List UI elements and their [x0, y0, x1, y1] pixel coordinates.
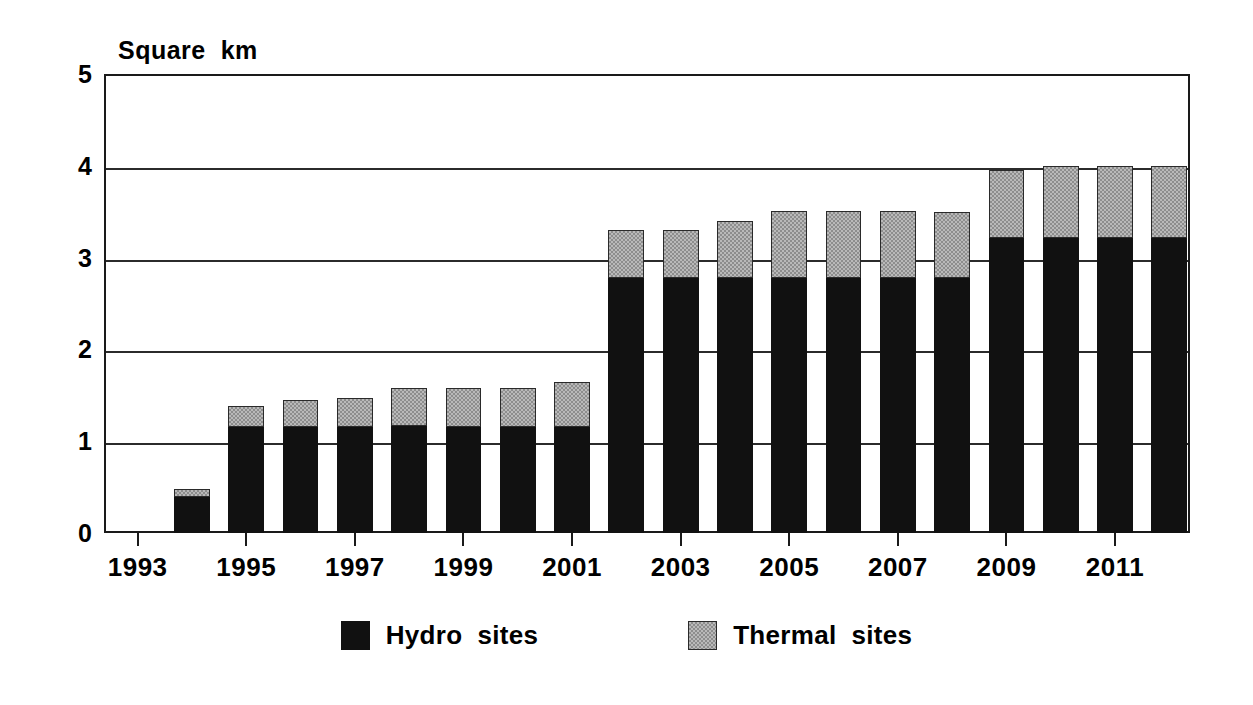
x-tick-label-2011: 2011 [1086, 552, 1144, 583]
x-tick-mark-2007 [897, 533, 899, 546]
bars-layer [104, 74, 1190, 533]
bar-segment-hydro [989, 238, 1025, 533]
bar-segment-hydro [1097, 238, 1133, 533]
bar-segment-thermal [989, 170, 1025, 238]
bar-segment-hydro [880, 278, 916, 533]
bar-1996 [283, 400, 319, 533]
x-tick-label-2007: 2007 [868, 552, 928, 583]
x-tick-label-1997: 1997 [325, 552, 385, 583]
bar-2012 [1151, 166, 1187, 533]
x-tick-mark-2001 [571, 533, 573, 546]
legend-item-thermal: Thermal sites [688, 620, 912, 651]
bar-segment-hydro [391, 426, 427, 533]
y-tick-label-3: 3 [52, 243, 92, 272]
bar-segment-hydro [771, 278, 807, 533]
bar-2005 [771, 211, 807, 533]
stacked-bar-chart: Square km 012345 19931995199719992001200… [0, 0, 1253, 705]
x-tick-label-2009: 2009 [977, 552, 1037, 583]
bar-segment-thermal [1151, 166, 1187, 239]
bar-segment-hydro [1151, 238, 1187, 533]
x-tick-label-2005: 2005 [759, 552, 819, 583]
legend-item-hydro: Hydro sites [341, 620, 538, 651]
x-axis-tick-marks [104, 533, 1190, 547]
x-tick-mark-1995 [245, 533, 247, 546]
bar-segment-thermal [446, 388, 482, 427]
x-tick-label-1999: 1999 [434, 552, 494, 583]
bar-segment-hydro [337, 427, 373, 533]
bar-2011 [1097, 166, 1133, 533]
bar-1997 [337, 398, 373, 533]
bar-segment-hydro [283, 427, 319, 533]
bar-segment-hydro [608, 278, 644, 533]
bar-2000 [500, 388, 536, 533]
y-tick-label-4: 4 [52, 151, 92, 180]
bar-segment-thermal [337, 398, 373, 426]
bar-segment-hydro [1043, 238, 1079, 533]
y-tick-label-2: 2 [52, 335, 92, 364]
bar-2001 [554, 382, 590, 533]
bar-2002 [608, 230, 644, 533]
bar-segment-hydro [826, 278, 862, 533]
bar-segment-hydro [717, 278, 753, 533]
bar-segment-hydro [934, 278, 970, 533]
bar-segment-hydro [500, 427, 536, 533]
bar-segment-thermal [391, 388, 427, 426]
legend-label-hydro: Hydro sites [386, 620, 538, 651]
bar-segment-thermal [228, 406, 264, 427]
x-tick-mark-1997 [354, 533, 356, 546]
legend-label-thermal: Thermal sites [733, 620, 912, 651]
y-tick-label-1: 1 [52, 427, 92, 456]
bar-segment-hydro [228, 427, 264, 533]
bar-2003 [663, 230, 699, 533]
bar-segment-thermal [663, 230, 699, 278]
bar-1994 [174, 489, 210, 533]
bar-segment-thermal [717, 221, 753, 278]
x-axis-tick-labels: 1993199519971999200120032005200720092011 [104, 552, 1190, 592]
bar-2010 [1043, 166, 1079, 533]
bar-segment-thermal [826, 211, 862, 278]
bar-segment-hydro [554, 427, 590, 533]
y-axis-title: Square km [118, 36, 258, 65]
bar-1998 [391, 388, 427, 533]
x-tick-mark-2005 [788, 533, 790, 546]
bar-segment-thermal [880, 211, 916, 278]
x-tick-label-2003: 2003 [651, 552, 711, 583]
bar-2006 [826, 211, 862, 533]
bar-segment-thermal [283, 400, 319, 427]
bar-1999 [446, 388, 482, 533]
bar-segment-thermal [934, 212, 970, 278]
bar-segment-thermal [771, 211, 807, 278]
x-tick-label-1995: 1995 [216, 552, 276, 583]
legend-swatch-thermal-icon [688, 621, 717, 650]
y-tick-label-5: 5 [52, 60, 92, 89]
bar-2007 [880, 211, 916, 533]
bar-segment-hydro [174, 497, 210, 533]
bar-2009 [989, 170, 1025, 533]
bar-segment-thermal [608, 230, 644, 278]
bar-segment-thermal [554, 382, 590, 428]
bar-2004 [717, 221, 753, 533]
bar-2008 [934, 212, 970, 533]
x-tick-mark-2003 [680, 533, 682, 546]
x-tick-mark-2011 [1114, 533, 1116, 546]
x-tick-mark-1999 [462, 533, 464, 546]
bar-segment-thermal [500, 388, 536, 427]
bar-segment-thermal [1097, 166, 1133, 239]
bar-segment-hydro [446, 427, 482, 533]
x-tick-label-1993: 1993 [108, 552, 168, 583]
bar-segment-hydro [663, 278, 699, 533]
x-tick-mark-1993 [137, 533, 139, 546]
bar-1995 [228, 406, 264, 533]
bar-segment-thermal [1043, 166, 1079, 239]
x-tick-label-2001: 2001 [542, 552, 602, 583]
x-tick-mark-2009 [1005, 533, 1007, 546]
y-tick-label-0: 0 [52, 519, 92, 548]
legend-swatch-hydro-icon [341, 621, 370, 650]
y-axis-tick-labels: 012345 [44, 74, 92, 533]
legend: Hydro sites Thermal sites [0, 620, 1253, 651]
bar-segment-thermal [174, 489, 210, 497]
